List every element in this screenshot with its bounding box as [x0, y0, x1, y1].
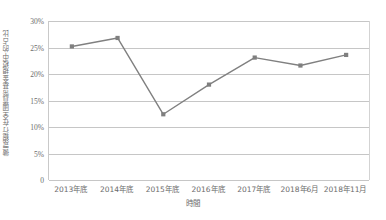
data-point-marker — [161, 112, 165, 116]
data-point-marker — [298, 63, 302, 67]
y-axis-title-text: 微眾銀行在全國貨幣基金規模中的占比 — [4, 30, 11, 156]
x-axis-tick-label: 2014年底 — [100, 183, 133, 194]
x-axis-tick-label: 2016年底 — [191, 183, 224, 194]
y-axis-tick-label: 10% — [30, 123, 44, 132]
x-axis-tick-label: 2018年11月 — [324, 183, 367, 194]
y-axis-tick-label: 0 — [40, 176, 44, 185]
x-axis-tick-label: 2013年底 — [54, 183, 87, 194]
y-axis-tick-label: 15% — [30, 96, 44, 105]
x-axis-tick-labels: 2013年底2014年底2015年底2016年底2017年底2018年6月201… — [48, 183, 370, 197]
x-axis-tick-label: 2018年6月 — [280, 183, 318, 194]
data-point-marker — [207, 83, 211, 87]
x-axis-title: 時間 — [0, 197, 386, 208]
series-polyline — [72, 38, 346, 114]
y-axis-title: 微眾銀行在全國貨幣基金規模中的占比 — [0, 0, 14, 186]
y-axis-tick-label: 30% — [30, 17, 44, 26]
gridline — [49, 180, 369, 181]
x-axis-tick-label: 2015年底 — [146, 183, 179, 194]
data-point-marker — [70, 44, 74, 48]
y-axis-tick-label: 20% — [30, 70, 44, 79]
data-point-marker — [115, 36, 119, 40]
y-axis-tick-label: 5% — [34, 149, 44, 158]
data-point-marker — [253, 55, 257, 59]
y-axis-tick-labels: 05%10%15%20%25%30% — [14, 14, 48, 186]
data-point-marker — [344, 53, 348, 57]
y-axis-tick-label: 25% — [30, 43, 44, 52]
x-axis-tick-label: 2017年底 — [237, 183, 270, 194]
plot-area — [48, 21, 370, 180]
series-line — [49, 21, 369, 180]
line-chart: 微眾銀行在全國貨幣基金規模中的占比 05%10%15%20%25%30% 201… — [0, 0, 386, 220]
